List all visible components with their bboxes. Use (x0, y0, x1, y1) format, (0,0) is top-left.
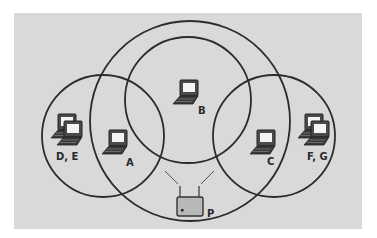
station-label-a: A (126, 157, 134, 168)
station-label-f-g: F, G (307, 151, 328, 162)
station-label-d-e: D, E (56, 151, 79, 162)
station-label-b: B (198, 105, 206, 116)
wireless-network-diagram: B A C D, E F, G P (0, 0, 377, 238)
station-label-c: C (267, 156, 274, 167)
access-point-label: P (207, 208, 214, 219)
